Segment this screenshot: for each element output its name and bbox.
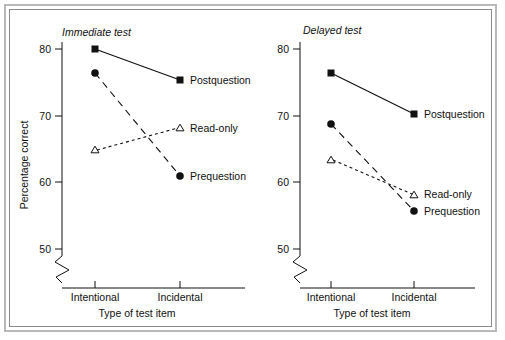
data-point-readonly-incidental-right (410, 191, 418, 198)
y-tick-label-60-left: 60 (39, 176, 51, 188)
y-tick-label-70-right: 70 (277, 110, 289, 122)
panel-immediate-test: 80 70 60 50 Intentional Incidental Type … (18, 26, 251, 319)
x-tick-label-incidental-left: Incidental (158, 291, 203, 303)
figure-container: 80 70 60 50 Intentional Incidental Type … (0, 0, 505, 340)
series-line-prequestion-left (95, 73, 180, 176)
chart-canvas: 80 70 60 50 Intentional Incidental Type … (0, 0, 505, 340)
series-label-postquestion-right: Postquestion (424, 108, 485, 120)
y-axis-title-left: Percentage correct (18, 121, 30, 210)
data-point-prequestion-intentional-right (327, 120, 335, 128)
series-label-prequestion-right: Prequestion (424, 205, 480, 217)
panel-title-delayed: Delayed test (303, 24, 362, 36)
series-line-readonly-left (97, 128, 178, 150)
series-label-readonly-right: Read-only (424, 188, 473, 200)
y-tick-label-50-left: 50 (39, 243, 51, 255)
x-axis-title-left: Type of test item (98, 307, 175, 319)
y-axis-break-left (55, 256, 69, 283)
data-point-prequestion-intentional-left (91, 69, 99, 77)
series-line-readonly-right (333, 160, 412, 194)
data-point-prequestion-incidental-left (176, 172, 184, 180)
data-point-prequestion-incidental-right (410, 207, 418, 215)
series-line-prequestion-right (331, 124, 414, 211)
y-tick-label-80-right: 80 (277, 43, 289, 55)
y-axis-break-right (293, 256, 307, 283)
data-point-readonly-incidental-left (176, 124, 184, 131)
series-label-readonly-left: Read-only (190, 122, 239, 134)
x-tick-label-incidental-right: Incidental (392, 291, 437, 303)
y-tick-label-70-left: 70 (39, 110, 51, 122)
data-point-postquestion-incidental-right (411, 111, 418, 118)
y-tick-label-60-right: 60 (277, 176, 289, 188)
data-point-readonly-intentional-right (327, 156, 335, 163)
x-tick-label-intentional-left: Intentional (71, 291, 119, 303)
series-label-postquestion-left: Postquestion (190, 74, 251, 86)
panel-delayed-test: 80 70 60 50 Intentional Incidental Type … (277, 24, 485, 319)
panel-title-immediate: Immediate test (62, 26, 132, 38)
data-point-postquestion-intentional-right (328, 70, 335, 77)
y-tick-label-80-left: 80 (39, 43, 51, 55)
data-point-postquestion-intentional-left (92, 46, 99, 53)
data-point-postquestion-incidental-left (177, 77, 184, 84)
x-tick-label-intentional-right: Intentional (307, 291, 355, 303)
x-axis-title-right: Type of test item (333, 307, 410, 319)
series-label-prequestion-left: Prequestion (190, 170, 246, 182)
series-line-postquestion-right (331, 73, 414, 114)
y-tick-label-50-right: 50 (277, 243, 289, 255)
series-line-postquestion-left (95, 49, 180, 80)
